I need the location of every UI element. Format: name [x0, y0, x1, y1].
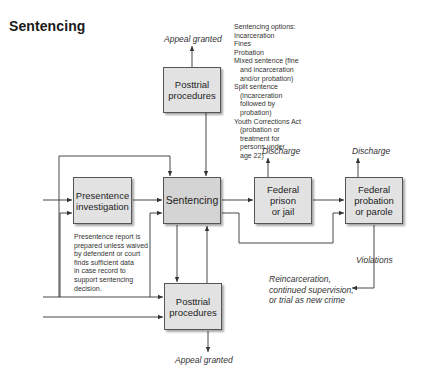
- option-line: probation): [234, 109, 324, 118]
- discharge-prison-label: Discharge: [262, 146, 300, 156]
- option-line: Fines: [234, 40, 324, 49]
- discharge-probation-label: Discharge: [352, 146, 390, 156]
- federal-prison-box: Federal prison or jail: [254, 177, 312, 224]
- note-line: in case record to: [74, 267, 154, 276]
- federal-probation-box: Federal probation or parole: [345, 177, 403, 224]
- presentence-investigation-box: Presentence investigation: [73, 177, 132, 224]
- option-line: followed by: [234, 100, 324, 109]
- outcome-line: or trial as new crime: [269, 295, 354, 306]
- violations-label: Violations: [356, 255, 393, 265]
- option-line: Mixed sentence (fine: [234, 57, 324, 66]
- note-line: support sentencing: [74, 276, 154, 285]
- presentence-note: Presentence report is prepared unless wa…: [74, 233, 154, 293]
- outcome-line: continued supervision,: [269, 285, 354, 296]
- posttrial-procedures-top-box: Posttrial procedures: [163, 67, 221, 113]
- note-line: decision.: [74, 285, 154, 294]
- option-line: Split sentence: [234, 83, 324, 92]
- option-line: and/or probation): [234, 75, 324, 84]
- option-line: treatment for: [234, 135, 324, 144]
- posttrial-procedures-bottom-box: Posttrial procedures: [164, 283, 222, 330]
- appeal-granted-top-label: Appeal granted: [164, 34, 222, 44]
- option-line: (probation or: [234, 126, 324, 135]
- note-line: by defendent or court: [74, 250, 154, 259]
- sentencing-options-note: Sentencing options: Incarceration Fines …: [234, 23, 324, 161]
- violation-outcome-text: Reincarceration, continued supervision, …: [269, 274, 354, 306]
- option-line: Probation: [234, 49, 324, 58]
- outcome-line: Reincarceration,: [269, 274, 354, 285]
- option-line: (incarceration: [234, 92, 324, 101]
- option-line: and incarceration: [234, 66, 324, 75]
- appeal-granted-bottom-label: Appeal granted: [175, 355, 233, 365]
- option-line: Incarceration: [234, 32, 324, 41]
- note-line: Presentence report is: [74, 233, 154, 242]
- sentencing-options-heading: Sentencing options:: [234, 23, 324, 32]
- note-line: prepared unless waived: [74, 242, 154, 251]
- sentencing-box: Sentencing: [163, 177, 221, 224]
- option-line: Youth Corrections Act: [234, 118, 324, 127]
- note-line: finds sufficient data: [74, 259, 154, 268]
